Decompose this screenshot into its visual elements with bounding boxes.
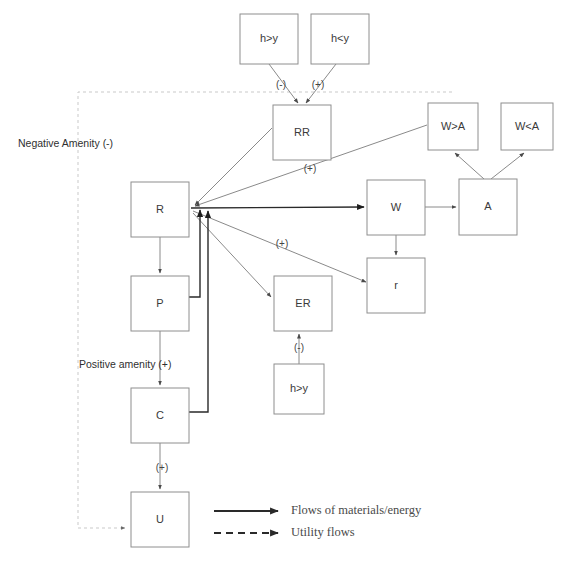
zone-label-negative-amenity: Negative Amenity (-) <box>18 137 113 149</box>
node-label-U: U <box>156 513 164 525</box>
legend-item-utility-flows: Utility flows <box>214 525 355 539</box>
node-h_gt_y_low[interactable]: h>y <box>274 364 324 414</box>
node-label-r: r <box>394 279 398 291</box>
legend: Flows of materials/energy Utility flows <box>214 503 422 539</box>
node-W[interactable]: W <box>367 180 425 235</box>
node-label-h_gt_y_low: h>y <box>290 382 309 394</box>
node-label-W: W <box>391 201 402 213</box>
edge-r-to-er <box>193 213 271 297</box>
edge-a-to-wlta <box>491 153 524 179</box>
node-boxes: h>yh<yRRW>AW<ARWArPERh>yCU <box>131 14 553 547</box>
node-label-R: R <box>156 203 164 215</box>
zone-labels: Negative Amenity (-)Positive amenity (+) <box>18 137 172 370</box>
node-C[interactable]: C <box>131 388 189 443</box>
legend-label-materials-energy: Flows of materials/energy <box>291 503 422 517</box>
edge-sign-rr-from-hgty: (-) <box>276 79 286 90</box>
node-label-ER: ER <box>295 297 310 309</box>
node-label-P: P <box>156 297 163 309</box>
node-W_gt_A[interactable]: W>A <box>428 103 478 150</box>
node-label-W_gt_A: W>A <box>441 120 466 132</box>
node-label-h_lt_y_top: h<y <box>331 32 350 44</box>
edge-a-to-wgta <box>455 153 484 179</box>
node-W_lt_A[interactable]: W<A <box>501 103 553 150</box>
edge-sign-r-to-er: (+) <box>276 238 289 249</box>
legend-item-materials-energy: Flows of materials/energy <box>214 503 422 517</box>
edge-r-to-w <box>191 207 364 208</box>
node-ER[interactable]: ER <box>274 276 332 331</box>
edge-rr-to-r <box>195 128 272 205</box>
node-h_gt_y_top[interactable]: h>y <box>240 14 298 64</box>
node-RR[interactable]: RR <box>273 105 331 160</box>
edge-sign-c-to-u: (+) <box>156 462 169 473</box>
edge-c-feedback-to-r <box>189 211 208 412</box>
diagram-svg: h>yh<yRRW>AW<ARWArPERh>yCU (-)(+)(+)(+)(… <box>0 0 568 568</box>
edge-sign-er-from-hgty: (-) <box>294 342 304 353</box>
node-label-RR: RR <box>294 126 310 138</box>
node-h_lt_y_top[interactable]: h<y <box>311 14 369 64</box>
node-label-W_lt_A: W<A <box>515 120 540 132</box>
diagram-canvas: h>yh<yRRW>AW<ARWArPERh>yCU (-)(+)(+)(+)(… <box>0 0 568 568</box>
edge-sign-rr-to-r: (+) <box>304 163 317 174</box>
node-A[interactable]: A <box>459 179 517 235</box>
node-P[interactable]: P <box>131 276 189 331</box>
legend-label-utility-flows: Utility flows <box>291 525 355 539</box>
node-label-h_gt_y_top: h>y <box>260 32 279 44</box>
edge-sign-rr-from-hlty: (+) <box>312 79 325 90</box>
node-R[interactable]: R <box>131 182 189 237</box>
edge-p-feedback-to-r <box>189 210 200 297</box>
node-label-C: C <box>156 409 164 421</box>
zone-label-positive-amenity: Positive amenity (+) <box>79 358 172 370</box>
node-label-A: A <box>484 200 492 212</box>
node-U[interactable]: U <box>131 492 189 547</box>
node-r[interactable]: r <box>367 258 425 313</box>
